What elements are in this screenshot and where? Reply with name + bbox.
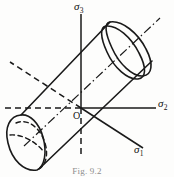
axis-sigma1-negative (10, 62, 81, 108)
axis-label-sigma3: σ3 (74, 0, 83, 12)
figure-drawing-canvas (0, 0, 174, 177)
principal-stress-space-figure: σ3 σ2 σ1 O Fig. 9.2 (0, 0, 174, 177)
axis-label-sigma1: σ1 (134, 143, 143, 155)
hydrostatic-axis (24, 18, 160, 146)
cylinder-body-edge-upper (21, 22, 110, 115)
axis-label-sigma2-subscript: 2 (164, 103, 168, 112)
axis-label-sigma1-subscript: 1 (140, 149, 144, 158)
origin-label: O (73, 110, 80, 121)
figure-caption: Fig. 9.2 (0, 166, 174, 176)
axis-sigma1-positive (81, 108, 143, 148)
axis-label-sigma2: σ2 (158, 97, 167, 109)
cylinder-near-cap-ellipse (7, 115, 45, 170)
axis-label-sigma3-subscript: 3 (80, 6, 84, 15)
